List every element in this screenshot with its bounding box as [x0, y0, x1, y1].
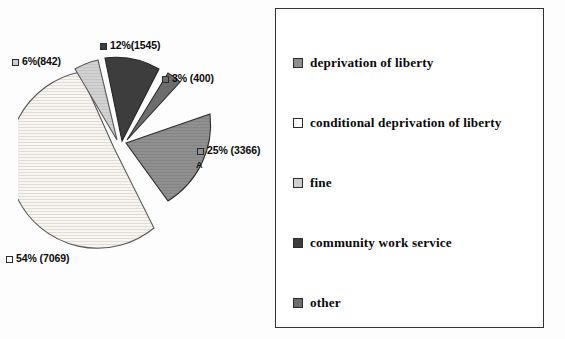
legend-swatch-conditional-deprivation-of-liberty — [293, 118, 303, 128]
legend-swatch-fine — [293, 178, 303, 188]
data-label-text-fine: 6%(842) — [22, 55, 61, 67]
legend-item-community-work-service[interactable]: community work service — [293, 213, 538, 273]
data-label-other: 3% (400) — [162, 73, 214, 84]
legend-panel: deprivation of liberty conditional depri… — [275, 8, 544, 328]
legend-item-other[interactable]: other — [293, 273, 538, 333]
legend-swatch-other — [293, 298, 303, 308]
data-label-text-community-work-service: 12%(1545) — [110, 39, 160, 51]
legend-label-deprivation-of-liberty: deprivation of liberty — [310, 55, 433, 71]
legend-label-other: other — [310, 295, 341, 311]
data-label-swatch-other — [162, 76, 169, 83]
legend-label-conditional-deprivation-of-liberty: conditional deprivation of liberty — [310, 115, 502, 131]
data-label-text-conditional-deprivation-of-liberty: 54% (7069) — [16, 252, 69, 264]
data-label-swatch-fine — [12, 59, 19, 66]
legend-swatch-community-work-service — [293, 238, 303, 248]
legend-swatch-deprivation-of-liberty — [293, 58, 303, 68]
data-label-deprivation-of-liberty: 25% (3366) — [197, 145, 260, 156]
data-label-text-other: 3% (400) — [172, 72, 214, 84]
legend-label-fine: fine — [310, 175, 332, 191]
legend-list: deprivation of liberty conditional depri… — [293, 33, 538, 333]
data-label-swatch-conditional-deprivation-of-liberty — [6, 256, 13, 263]
pie-chart-area: 6%(842) 12%(1545) 3% (400) 25% (3366) 54… — [0, 0, 275, 339]
pie-chart-figure: 6%(842) 12%(1545) 3% (400) 25% (3366) 54… — [0, 0, 565, 339]
pie-annotation-a: A — [196, 160, 203, 170]
data-label-swatch-deprivation-of-liberty — [197, 148, 204, 155]
data-label-community-work-service: 12%(1545) — [100, 40, 160, 51]
data-label-text-deprivation-of-liberty: 25% (3366) — [207, 144, 260, 156]
legend-item-deprivation-of-liberty[interactable]: deprivation of liberty — [293, 33, 538, 93]
data-label-swatch-community-work-service — [100, 43, 107, 50]
data-label-fine: 6%(842) — [12, 56, 61, 67]
data-label-conditional-deprivation-of-liberty: 54% (7069) — [6, 253, 69, 264]
legend-label-community-work-service: community work service — [310, 235, 452, 251]
pie-chart-graphic — [18, 55, 218, 250]
legend-item-conditional-deprivation-of-liberty[interactable]: conditional deprivation of liberty — [293, 93, 538, 153]
legend-item-fine[interactable]: fine — [293, 153, 538, 213]
